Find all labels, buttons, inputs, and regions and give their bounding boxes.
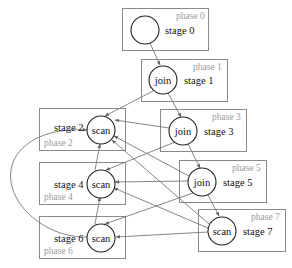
stage-2-label: stage 2 xyxy=(54,122,83,133)
stage-7-op: scan xyxy=(213,226,232,237)
edge-6-4 xyxy=(95,197,100,224)
phase-6-label: phase 6 xyxy=(44,246,73,256)
phase-3-label: phase 3 xyxy=(212,112,241,122)
stage-3-op: join xyxy=(174,126,192,137)
phase-5-label: phase 5 xyxy=(232,163,261,173)
stage-7-label: stage 7 xyxy=(243,226,272,237)
stage-1-op: join xyxy=(154,75,172,86)
phase-0-label: phase 0 xyxy=(176,11,205,21)
phase-7-label: phase 7 xyxy=(251,212,280,222)
stage-6-label: stage 6 xyxy=(54,233,83,244)
stage-1-label: stage 1 xyxy=(184,75,213,86)
phase-2-label: phase 2 xyxy=(44,138,73,148)
stage-4-label: stage 4 xyxy=(54,179,84,190)
stage-4-op: scan xyxy=(92,179,111,190)
phase-1-label: phase 1 xyxy=(193,62,222,72)
stage-diagram: phase 0 phase 1 phase 2 phase 3 phase 4 … xyxy=(0,0,292,268)
edge-4-2 xyxy=(95,144,100,170)
stage-6-op: scan xyxy=(92,233,111,244)
edge-5-6 xyxy=(105,193,193,224)
edge-0-1 xyxy=(150,43,160,65)
edge-7-6 xyxy=(116,232,208,237)
edge-5-7 xyxy=(208,195,219,216)
edge-3-4 xyxy=(106,142,175,170)
phase-4-label: phase 4 xyxy=(44,192,73,202)
stage-3-label: stage 3 xyxy=(204,126,233,137)
stage-5-label: stage 5 xyxy=(223,177,252,188)
edge-3-5 xyxy=(188,144,200,168)
stage-5-op: join xyxy=(193,177,211,188)
stage-0-circle xyxy=(131,16,159,44)
edge-1-3 xyxy=(168,93,181,117)
stage-2-op: scan xyxy=(92,125,111,136)
stage-0-label: stage 0 xyxy=(165,25,194,36)
edge-1-2 xyxy=(105,91,153,116)
